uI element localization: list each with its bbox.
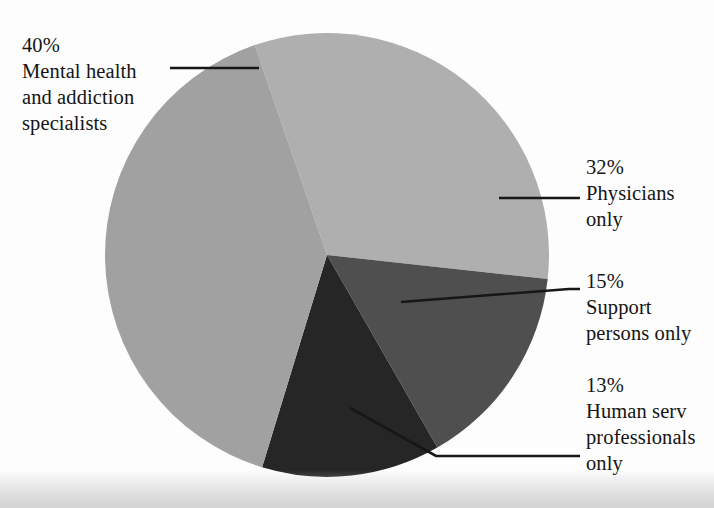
callout-label-mental-health: 40% Mental health and addiction speciali… [22, 32, 137, 136]
callout-text-human-services-line3: only [586, 450, 695, 476]
callout-label-physicians: 32% Physicians only [586, 154, 675, 232]
callout-percent-support-persons: 15% [586, 268, 691, 294]
callout-text-human-services-line2: professionals [586, 424, 695, 450]
callout-percent-human-services: 13% [586, 372, 695, 398]
callout-text-physicians-line1: Physicians [586, 180, 675, 206]
callout-text-support-persons-line2: persons only [586, 320, 691, 346]
pie-chart-figure: 40% Mental health and addiction speciali… [0, 0, 714, 508]
callout-label-support-persons: 15% Support persons only [586, 268, 691, 346]
callout-percent-physicians: 32% [586, 154, 675, 180]
callout-text-support-persons-line1: Support [586, 294, 691, 320]
callout-text-physicians-line2: only [586, 206, 675, 232]
callout-label-human-service-professionals: 13% Human serv professionals only [586, 372, 695, 476]
callout-text-human-services-line1: Human serv [586, 398, 695, 424]
callout-text-mental-health-line2: and addiction [22, 84, 137, 110]
callout-text-mental-health-line3: specialists [22, 110, 137, 136]
callout-text-mental-health-line1: Mental health [22, 58, 137, 84]
callout-percent-mental-health: 40% [22, 32, 137, 58]
